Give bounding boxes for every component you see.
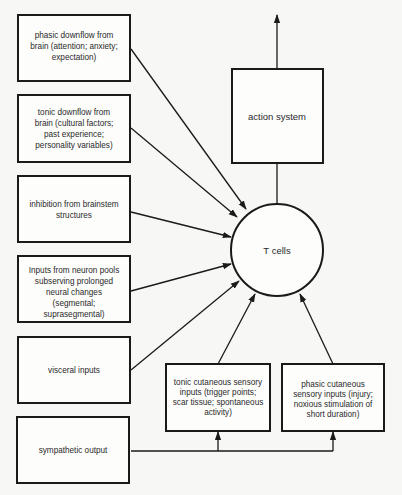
- left-box-neuron-pools: Inputs from neuron pools subserving prol…: [18, 256, 130, 322]
- bottom-box-phasic-cutaneous: phasic cutaneous sensory inputs (injury;…: [282, 364, 384, 431]
- label-line: subserving prolonged: [35, 277, 114, 286]
- label-line: personality variables): [35, 141, 113, 150]
- left-box-brainstem-inhibition: inhibition from brainstem structures: [18, 176, 130, 242]
- label-line: sympathetic output: [39, 446, 108, 455]
- label-line: inputs (trigger points;: [180, 388, 256, 397]
- label-line: tonic downflow from: [38, 108, 111, 117]
- left-box-phasic-downflow: phasic downflow from brain (attention; a…: [18, 15, 130, 81]
- label-line: past experience;: [44, 130, 104, 139]
- label-line: expectation): [52, 53, 97, 62]
- label-line: phasic cutaneous: [301, 380, 365, 389]
- label-line: inhibition from brainstem: [29, 200, 118, 209]
- label-line: noxious stimulation of: [294, 400, 373, 409]
- label-line: scar tissue; spontaneous: [173, 398, 264, 407]
- tcells-node: T cells: [231, 204, 323, 296]
- label-line: tonic cutaneous sensory: [174, 378, 263, 387]
- label-line: activity): [204, 408, 232, 417]
- label-line: brain (cultural factors;: [35, 119, 114, 128]
- arrow-neuron-pools-to-tcells: [131, 264, 231, 291]
- arrow-tonic-cutaneous-to-tcells: [218, 294, 255, 364]
- label-line: phasic downflow from: [35, 31, 114, 40]
- arrow-brainstem-to-tcells: [131, 212, 231, 237]
- label-line: structures: [56, 211, 92, 220]
- label-line: brain (attention; anxiety;: [30, 42, 117, 51]
- label-line: short duration): [307, 410, 360, 419]
- action-system-label: action system: [248, 111, 306, 122]
- label-line: suprasegmental): [44, 310, 105, 319]
- left-box-tonic-downflow: tonic downflow from brain (cultural fact…: [18, 95, 130, 162]
- arrow-tonic-downflow-to-tcells: [131, 128, 237, 217]
- label-line: Inputs from neuron pools: [29, 266, 120, 275]
- label-line: visceral inputs: [48, 366, 100, 375]
- arrow-phasic-downflow-to-tcells: [131, 49, 246, 209]
- gate-control-diagram: phasic downflow from brain (attention; a…: [0, 0, 402, 495]
- left-box-sympathetic-output: sympathetic output: [17, 417, 129, 483]
- arrow-visceral-to-tcells: [131, 281, 239, 370]
- tcells-label: T cells: [263, 245, 291, 256]
- label-line: (segmental;: [53, 299, 96, 308]
- left-box-visceral-inputs: visceral inputs: [18, 337, 130, 403]
- action-system-box: action system: [232, 69, 323, 163]
- label-line: neural changes: [46, 288, 102, 297]
- bottom-box-tonic-cutaneous: tonic cutaneous sensory inputs (trigger …: [166, 364, 270, 431]
- label-line: sensory inputs (injury;: [293, 390, 373, 399]
- arrow-phasic-cutaneous-to-tcells: [300, 294, 333, 364]
